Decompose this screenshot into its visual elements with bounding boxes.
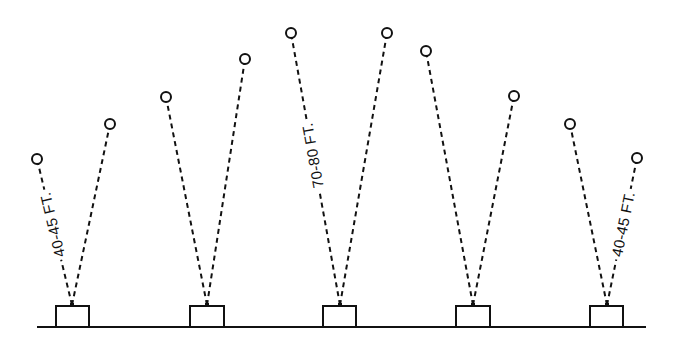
distance-label: 40-45 FT. <box>608 190 638 258</box>
circle-marker-icon <box>382 28 392 38</box>
base-box <box>190 306 224 327</box>
circle-marker-icon <box>32 154 42 164</box>
base-box <box>323 306 356 327</box>
dashed-ray <box>207 64 244 305</box>
dashed-ray <box>571 129 607 305</box>
circle-marker-icon <box>509 91 519 101</box>
circle-marker-icon <box>240 54 250 64</box>
distance-diagram: 40-45 FT.70-80 FT.40-45 FT. <box>0 0 678 348</box>
circle-marker-icon <box>632 153 642 163</box>
base-box <box>590 306 623 327</box>
dashed-ray <box>167 102 207 305</box>
base-box <box>56 306 89 327</box>
dashed-rays <box>38 38 636 305</box>
label-center: 70-80 FT. <box>298 118 328 192</box>
pivot-nub <box>70 303 74 307</box>
station-4 <box>456 303 490 327</box>
circle-marker-icon <box>286 28 296 38</box>
pivot-nub <box>471 303 475 307</box>
circle-marker-icon <box>105 119 115 129</box>
circle-marker-icon <box>421 46 431 56</box>
circle-marker-icon <box>161 92 171 102</box>
station-3 <box>323 303 356 327</box>
pivot-nub <box>338 303 342 307</box>
pivot-nub <box>205 303 209 307</box>
distance-labels: 40-45 FT.70-80 FT.40-45 FT. <box>36 118 640 261</box>
stations <box>56 303 623 327</box>
dashed-ray <box>72 129 109 305</box>
dashed-ray <box>427 56 473 305</box>
station-5 <box>590 303 623 327</box>
label-right: 40-45 FT. <box>607 187 639 261</box>
label-left: 40-45 FT. <box>36 188 70 262</box>
dashed-ray <box>473 101 513 305</box>
station-2 <box>190 303 224 327</box>
distance-label: 70-80 FT. <box>298 121 326 189</box>
circle-marker-icon <box>565 119 575 129</box>
ray-end-markers <box>32 28 642 164</box>
base-box <box>456 306 490 327</box>
pivot-nub <box>605 303 609 307</box>
distance-label: 40-45 FT. <box>36 191 68 259</box>
dashed-ray <box>340 38 386 305</box>
station-1 <box>56 303 89 327</box>
